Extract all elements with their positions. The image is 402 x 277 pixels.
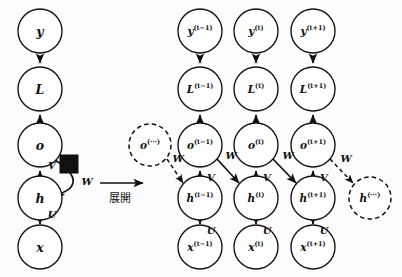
node-L: L	[18, 67, 62, 111]
unfolded-rnn-graph: o(⋯)h(⋯)y(t−1)L(t−1)o(t−1)h(t−1)x(t−1)y(…	[129, 9, 391, 269]
node-x-t1: x(t+1)	[291, 225, 335, 269]
unfold-label: 展開	[109, 192, 131, 205]
node-x-t1: x(t−1)	[178, 225, 222, 269]
edge-W-t-to-tplus1	[273, 159, 296, 183]
node-o-ellipsis: o(⋯)	[129, 124, 171, 166]
node-h-ellipsis: h(⋯)	[349, 177, 391, 219]
node-x-t: x(t)	[234, 225, 278, 269]
edge-W-tminus1-to-t	[217, 159, 239, 183]
node-L-label: L	[35, 81, 45, 96]
node-o-t1: o(t−1)	[178, 123, 222, 167]
node-h-t1: h(t+1)	[291, 176, 335, 220]
node-o-t: o(t)	[234, 123, 278, 167]
edge-label-V-t: V	[263, 172, 272, 183]
node-o-t1: o(t+1)	[291, 123, 335, 167]
edge-label-W-tminus1-to-t: W	[225, 150, 238, 161]
node-o-label: o	[36, 137, 44, 152]
node-x: x	[18, 225, 62, 269]
rnn-unfolding-figure: yLohxVUW 展開 o(⋯)h(⋯)y(t−1)L(t−1)o(t−1)h(…	[0, 0, 402, 277]
edge-label-V-folded: V	[48, 160, 57, 171]
edge-label-W-folded: W	[81, 176, 94, 187]
node-L-t1: L(t−1)	[178, 67, 222, 111]
edge-label-W-tplus1-to-ellipsis: W	[340, 153, 353, 164]
node-y-label: y	[35, 23, 44, 38]
node-h-label: h	[35, 190, 44, 205]
edge-label-W-ellipsis-to-tminus1: W	[172, 153, 185, 164]
edge-label-W-t-to-tplus1: W	[282, 150, 295, 161]
edge-label-U-t1: U	[207, 225, 217, 236]
delay-square	[60, 155, 78, 173]
node-y-t1: y(t+1)	[291, 9, 335, 53]
node-y: y	[18, 9, 62, 53]
edge-label-U-folded: U	[48, 209, 58, 220]
folded-rnn-graph: yLohxVUW	[18, 9, 94, 269]
node-y-t1: y(t−1)	[178, 9, 222, 53]
edge-label-V-t1: V	[320, 172, 329, 183]
node-h-t: h(t)	[234, 176, 278, 220]
node-L-t1: L(t+1)	[291, 67, 335, 111]
node-L-t: L(t)	[234, 67, 278, 111]
node-x-label: x	[35, 239, 44, 254]
edge-label-V-t1: V	[207, 172, 216, 183]
edge-label-U-t1: U	[320, 225, 330, 236]
node-y-t: y(t)	[234, 9, 278, 53]
unfold-transition: 展開	[100, 183, 143, 205]
edge-label-U-t: U	[263, 225, 273, 236]
node-h-t1: h(t−1)	[178, 176, 222, 220]
rnn-diagram-canvas: yLohxVUW 展開 o(⋯)h(⋯)y(t−1)L(t−1)o(t−1)h(…	[0, 0, 402, 277]
